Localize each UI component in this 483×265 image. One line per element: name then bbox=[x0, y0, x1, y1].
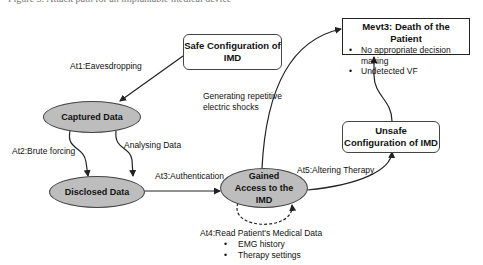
node-safe-configuration: Safe Configuration of IMD bbox=[183, 34, 282, 70]
node-disclosed-data: Disclosed Data bbox=[49, 176, 145, 208]
node-label: Safe Configuration of IMD bbox=[184, 40, 281, 64]
node-label: Captured Data bbox=[61, 111, 123, 123]
bullet-item: Therapy settings bbox=[210, 250, 330, 261]
edge-label-at1: At1:Eavesdropping bbox=[70, 61, 142, 72]
bullet-item: EMG history bbox=[210, 239, 330, 250]
edge-label-analysing: Analysing Data bbox=[124, 140, 181, 151]
bullet-item: Undetected VF bbox=[347, 66, 465, 77]
at4-title: At4:Read Patient's Medical Data bbox=[200, 228, 330, 239]
edge-label-generating: Generating repetitive electric shocks bbox=[203, 91, 293, 113]
node-label: Gained Access to the IMD bbox=[233, 170, 295, 206]
node-death-of-patient: Mevt3: Death of the Patient No appropria… bbox=[342, 18, 470, 55]
edge-label-at4: At4:Read Patient's Medical Data EMG hist… bbox=[200, 228, 330, 261]
node-label: Unsafe Configuration of IMD bbox=[343, 125, 439, 149]
edge-label-at3: At3:Authentication bbox=[155, 171, 224, 182]
node-unsafe-configuration: Unsafe Configuration of IMD bbox=[342, 121, 440, 153]
node-captured-data: Captured Data bbox=[43, 101, 141, 133]
edge-analysing bbox=[116, 131, 133, 176]
edge-label-at5: At5:Altering Therapy bbox=[297, 165, 374, 176]
node-title: Mevt3: Death of the Patient bbox=[347, 21, 465, 45]
node-label: Disclosed Data bbox=[65, 186, 130, 198]
edge-label-at2: At2:Brute forcing bbox=[12, 146, 75, 157]
node-gained-access: Gained Access to the IMD bbox=[220, 168, 308, 208]
bullet-item: No appropriate decision making bbox=[347, 45, 465, 66]
